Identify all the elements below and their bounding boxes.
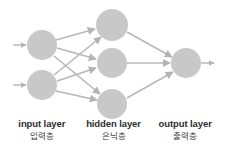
- label-hidden-layer-en: hidden layer: [78, 119, 150, 130]
- hidden-layer-nodes: [96, 9, 128, 119]
- edge-i2-h3: [56, 91, 97, 100]
- edge-i2-h2: [57, 68, 96, 81]
- label-output-layer: output layer 출력층: [149, 119, 221, 142]
- node-hidden-3: [97, 89, 127, 119]
- label-hidden-layer: hidden layer 은닉층: [78, 119, 150, 142]
- label-hidden-layer-ko: 은닉층: [78, 132, 150, 142]
- edge-group-hidden-to-output: [127, 32, 173, 98]
- neural-network-diagram: input layer 입력층 hidden layer 은닉층 output …: [0, 0, 227, 159]
- input-layer-nodes: [27, 30, 57, 100]
- edge-i1-h1: [56, 29, 95, 40]
- edge-group-input-to-hidden: [54, 29, 101, 100]
- node-hidden-1: [96, 9, 128, 41]
- node-input-2: [27, 70, 57, 100]
- node-output-1: [171, 48, 201, 78]
- output-layer-nodes: [171, 48, 201, 78]
- node-input-1: [27, 30, 57, 60]
- label-input-layer-ko: 입력층: [6, 132, 78, 142]
- label-output-layer-ko: 출력층: [149, 132, 221, 142]
- edge-h3-o1: [127, 72, 173, 98]
- label-output-layer-en: output layer: [149, 119, 221, 130]
- node-hidden-2: [97, 48, 127, 78]
- label-input-layer: input layer 입력층: [6, 119, 78, 142]
- layer-labels: input layer 입력층 hidden layer 은닉층 output …: [0, 119, 227, 159]
- label-input-layer-en: input layer: [6, 119, 78, 130]
- edge-h1-o1: [127, 32, 172, 57]
- input-arrow-group: [13, 45, 26, 85]
